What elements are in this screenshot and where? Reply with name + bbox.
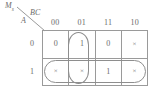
column-header-10: 10 [122, 17, 149, 29]
karnaugh-map-diagram: Ms BC A 00 01 11 10 0 1 0 1 0 × × × 1 × [0, 0, 160, 92]
cell-a1-bc01: × [69, 59, 95, 86]
output-variable-label: Ms [5, 2, 14, 12]
kmap-grid: 0 1 0 × × × 1 × [42, 30, 148, 86]
cell-a0-bc00: 0 [43, 31, 69, 58]
row-header-column: 0 1 [24, 30, 40, 86]
row-header-1: 1 [24, 58, 40, 86]
output-variable-subscript: s [12, 6, 14, 12]
column-header-01: 01 [69, 17, 96, 29]
column-variable-label: BC [30, 9, 40, 17]
cell-a0-bc11: 0 [96, 31, 122, 58]
column-header-00: 00 [42, 17, 69, 29]
column-header-row: 00 01 11 10 [42, 17, 148, 29]
row-header-0: 0 [24, 30, 40, 58]
output-variable-base: M [5, 1, 12, 10]
cell-a0-bc01: 1 [69, 31, 95, 58]
cell-a1-bc11: 1 [96, 59, 122, 86]
cell-a1-bc00: × [43, 59, 69, 86]
kmap-row-a1: × × 1 × [43, 59, 147, 86]
cell-a0-bc10: × [122, 31, 147, 58]
column-header-11: 11 [95, 17, 122, 29]
row-variable-label: A [21, 17, 26, 25]
kmap-row-a0: 0 1 0 × [43, 31, 147, 59]
cell-a1-bc10: × [122, 59, 147, 86]
